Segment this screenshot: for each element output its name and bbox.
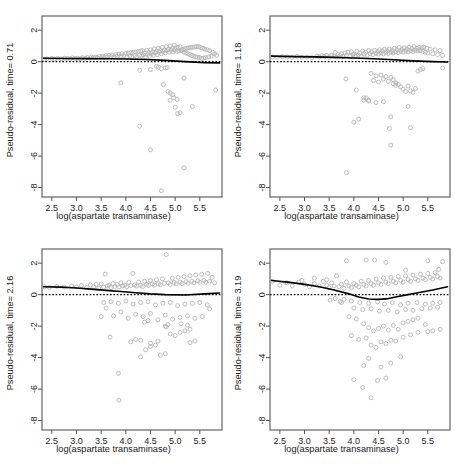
svg-text:-2: -2: [29, 322, 39, 330]
svg-text:0: 0: [257, 292, 267, 297]
svg-text:-2: -2: [257, 89, 267, 97]
svg-text:-4: -4: [257, 354, 267, 362]
panel-2-plot: 2.53.03.54.04.55.05.520-2-4-6-8: [228, 0, 455, 233]
svg-text:-6: -6: [257, 152, 267, 160]
svg-text:-8: -8: [29, 184, 39, 192]
panel-3-plot: 2.53.03.54.04.55.05.520-2-4-6-8: [0, 233, 227, 466]
svg-text:-2: -2: [257, 322, 267, 330]
svg-text:-6: -6: [29, 385, 39, 393]
panel-4: Pseudo-residual, time= 3.19 2.53.03.54.0…: [228, 233, 455, 466]
svg-text:-4: -4: [29, 121, 39, 129]
svg-text:2: 2: [257, 28, 267, 33]
svg-text:-6: -6: [257, 385, 267, 393]
svg-text:2: 2: [257, 261, 267, 266]
svg-text:-8: -8: [257, 417, 267, 425]
svg-text:0: 0: [29, 292, 39, 297]
panel-3-x-axis-label: log(aspartate transaminase): [0, 444, 227, 454]
panel-4-plot: 2.53.03.54.04.55.05.520-2-4-6-8: [228, 233, 455, 466]
panel-4-x-axis-label: log(aspartate transaminase): [228, 444, 455, 454]
svg-text:0: 0: [257, 59, 267, 64]
svg-text:-8: -8: [29, 417, 39, 425]
panel-3: Pseudo-residual, time= 2.16 2.53.03.54.0…: [0, 233, 227, 466]
svg-text:2: 2: [29, 28, 39, 33]
svg-text:-6: -6: [29, 152, 39, 160]
panel-2: Pseudo-residual, time= 1.18 2.53.03.54.0…: [228, 0, 455, 233]
svg-text:0: 0: [29, 59, 39, 64]
svg-text:-2: -2: [29, 89, 39, 97]
panel-1-plot: 2.53.03.54.04.55.05.520-2-4-6-8: [0, 0, 227, 233]
panel-2-x-axis-label: log(aspartate transaminase): [228, 211, 455, 221]
svg-text:-4: -4: [29, 354, 39, 362]
panel-1: Pseudo-residual, time= 0.71 2.53.03.54.0…: [0, 0, 227, 233]
pseudo-residual-panel-figure: Pseudo-residual, time= 0.71 2.53.03.54.0…: [0, 0, 455, 466]
panel-1-x-axis-label: log(aspartate transaminase): [0, 211, 227, 221]
svg-text:2: 2: [29, 261, 39, 266]
svg-text:-4: -4: [257, 121, 267, 129]
svg-text:-8: -8: [257, 184, 267, 192]
